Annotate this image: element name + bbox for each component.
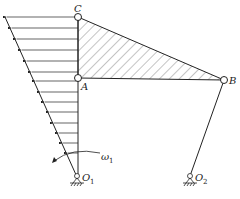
velocity-envelope-line [5, 17, 77, 177]
label-omega-sub: 1 [109, 157, 113, 165]
velocity-arrows [7, 17, 78, 153]
link-o2-b [190, 83, 223, 176]
coupler-triangle [78, 17, 224, 80]
label-o1-sub: 1 [90, 178, 94, 186]
joint-c [75, 14, 82, 21]
linkage-diagram: C A B O 1 O 2 ω 1 [0, 0, 240, 199]
rotation-arrowhead [52, 157, 57, 163]
label-omega: ω [101, 151, 109, 162]
label-o1: O [82, 172, 90, 183]
label-o2: O [195, 172, 203, 183]
label-b: B [228, 75, 236, 86]
label-a: A [80, 81, 88, 92]
joint-b [221, 77, 228, 84]
label-c: C [74, 3, 82, 14]
label-o2-sub: 2 [203, 178, 207, 186]
